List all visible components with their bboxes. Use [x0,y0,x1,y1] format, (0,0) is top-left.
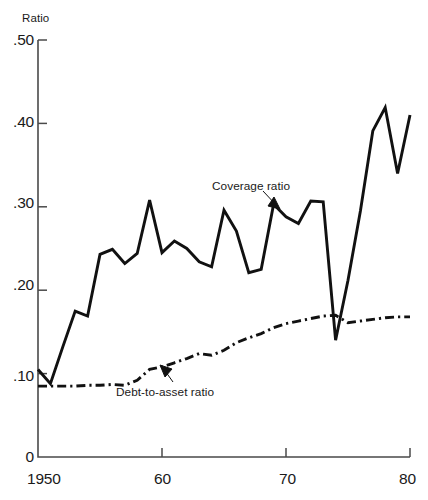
y-tick-label-30: .30 [0,194,34,212]
y-axis-ticks [38,40,47,374]
series-coverage-ratio-line [38,108,410,384]
y-tick-label-20: .20 [0,276,34,294]
y-tick-label-50: .50 [0,31,34,49]
x-axis-ticks [162,448,410,457]
debt-to-asset-ratio-annotation-label: Debt-to-asset ratio [116,385,214,399]
x-tick-label-60: 60 [154,470,171,488]
x-tick-label-80: 80 [399,470,416,488]
chart-figure: Ratio .50 .40 .30 .20 .10 0 1950 60 70 8… [0,0,428,500]
x-tick-label-70: 70 [279,470,296,488]
x-tick-label-1950: 1950 [27,470,61,488]
y-tick-label-40: .40 [0,113,34,131]
coverage-ratio-annotation-label: Coverage ratio [212,179,290,193]
y-axis-unit-label: Ratio [22,12,49,24]
y-tick-label-0: 0 [0,448,34,466]
y-tick-label-10: .10 [0,367,34,385]
coverage-ratio-annotation-arrow [263,191,280,209]
chart-plot-area [0,0,428,500]
debt-to-asset-ratio-annotation-arrow [160,365,173,382]
series-debt-to-asset-ratio-line [38,315,410,386]
